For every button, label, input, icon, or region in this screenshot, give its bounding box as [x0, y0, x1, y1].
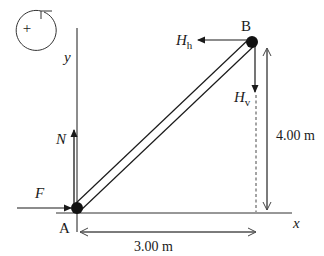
horizontal-reaction-label: Hh: [175, 32, 193, 51]
point-b-label: B: [241, 18, 251, 34]
vertical-dimension-label: 4.00 m: [276, 128, 315, 143]
normal-force-label: N: [55, 131, 67, 147]
friction-force-label: F: [34, 185, 45, 201]
y-axis-label: y: [62, 49, 71, 65]
horizontal-dimension-label: 3.00 m: [134, 239, 173, 254]
free-body-diagram: + y x N F A B Hh Hv 4.00 m 3.00 m: [0, 0, 324, 256]
ladder-member: [74, 39, 255, 211]
x-axis-label: x: [292, 215, 300, 231]
vertical-reaction-label: Hv: [233, 89, 251, 108]
rotation-plus-sign: +: [23, 20, 31, 36]
point-a-label: A: [59, 220, 70, 236]
point-b-dot: [246, 36, 258, 48]
point-a-dot: [71, 202, 83, 214]
